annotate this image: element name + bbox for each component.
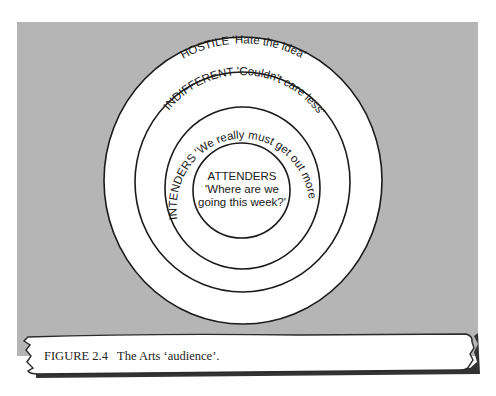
audience-rings-diagram: HOSTILE 'Hate the idea' INDIFFERENT 'Cou… bbox=[0, 0, 496, 396]
label-attenders-quote-line1: 'Where are we bbox=[205, 183, 279, 195]
figure-caption: FIGURE 2.4 The Arts ‘audience’. bbox=[44, 349, 219, 364]
label-attenders-title: ATTENDERS bbox=[208, 170, 277, 182]
label-attenders-quote-line2: going this week?' bbox=[198, 196, 286, 208]
